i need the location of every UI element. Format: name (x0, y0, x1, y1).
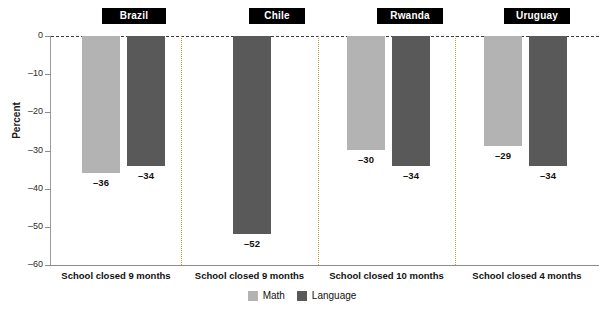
y-tick-label-40: –40 (0, 183, 43, 193)
panel-separator-1 (181, 36, 182, 265)
bar-label-rwanda-language: –34 (388, 170, 434, 181)
y-tick-label-50: –50 (0, 221, 43, 231)
x-label-rwanda: School closed 10 months (318, 270, 455, 281)
y-tick-label-0: 0 (0, 30, 43, 40)
legend-swatch-language-icon (297, 291, 307, 301)
bar-label-uruguay-language: –34 (525, 170, 571, 181)
bar-brazil-math (82, 36, 120, 173)
learning-loss-bar-chart: Brazil Chile Rwanda Uruguay 0 –10 –20 –3… (0, 0, 604, 311)
bar-chile-language (233, 36, 271, 234)
y-tick-label-20: –20 (0, 106, 43, 116)
bar-label-uruguay-math: –29 (480, 150, 526, 161)
panel-header-rwanda: Rwanda (377, 8, 443, 24)
bar-brazil-language (127, 36, 165, 166)
legend-item-language: Language (297, 290, 357, 301)
panel-separator-3 (455, 36, 456, 265)
panel-header-chile: Chile (249, 8, 305, 24)
bar-label-brazil-language: –34 (123, 170, 169, 181)
panel-header-row: Brazil Chile Rwanda Uruguay (51, 8, 599, 25)
x-label-uruguay: School closed 4 months (455, 270, 599, 281)
legend-label-language: Language (312, 290, 357, 301)
y-tick-label-30: –30 (0, 145, 43, 155)
panel-separator-2 (318, 36, 319, 265)
legend-label-math: Math (263, 290, 285, 301)
chart-legend: Math Language (0, 290, 604, 301)
bar-rwanda-math (347, 36, 385, 150)
bar-uruguay-language (529, 36, 567, 166)
y-axis-title: Percent (11, 61, 22, 181)
panel-header-uruguay: Uruguay (504, 8, 570, 24)
legend-swatch-math-icon (248, 291, 258, 301)
bar-label-brazil-math: –36 (78, 177, 124, 188)
plot-area: –36 –34 –52 –30 –34 –29 –34 (51, 36, 599, 265)
cropped-caption-sliver (60, 0, 480, 2)
bar-label-rwanda-math: –30 (343, 154, 389, 165)
legend-item-math: Math (248, 290, 285, 301)
y-tick-label-10: –10 (0, 68, 43, 78)
x-axis-line (51, 265, 599, 266)
bar-uruguay-math (484, 36, 522, 146)
panel-header-brazil: Brazil (102, 8, 166, 24)
bar-label-chile-language: –52 (229, 238, 275, 249)
bar-rwanda-language (392, 36, 430, 166)
x-label-brazil: School closed 9 months (51, 270, 181, 281)
y-tick-label-60: –60 (0, 259, 43, 269)
x-label-chile: School closed 9 months (181, 270, 318, 281)
